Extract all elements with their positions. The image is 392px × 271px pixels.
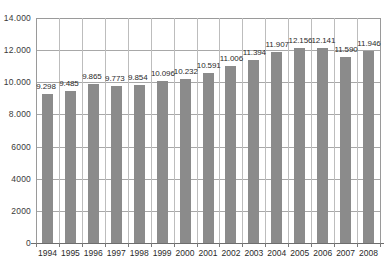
x-axis-category-label: 2005 [290, 249, 309, 258]
y-axis-tick-label: 2000 [0, 207, 31, 216]
gridline-vertical [59, 18, 60, 243]
x-axis-category-label: 1996 [84, 249, 103, 258]
y-axis-tick-label: 10.000 [0, 78, 31, 87]
y-axis-tick-label: 8.000 [0, 110, 31, 119]
bar-value-label: 12.141 [311, 37, 335, 45]
gridline-vertical [174, 18, 175, 243]
bar [248, 60, 259, 243]
x-axis-tick [151, 243, 152, 247]
x-axis-category-label: 2000 [176, 249, 195, 258]
x-axis-category-label: 1998 [130, 249, 149, 258]
bar-value-label: 11.006 [220, 55, 243, 63]
x-axis-line [31, 243, 384, 244]
x-axis-tick [357, 243, 358, 247]
bar [294, 48, 305, 243]
y-axis-tick-label: 6000 [0, 142, 31, 151]
bar-value-label: 10.232 [174, 68, 198, 76]
x-axis-category-label: 2004 [267, 249, 286, 258]
x-axis-category-label: 2002 [221, 249, 240, 258]
bar [65, 91, 76, 243]
bar [111, 86, 122, 243]
bar [157, 81, 168, 243]
y-axis-tick-label: 4000 [0, 174, 31, 183]
x-axis-category-label: 2001 [199, 249, 218, 258]
x-axis-tick [59, 243, 60, 247]
gridline-vertical [380, 18, 381, 243]
bar-value-label: 11.907 [266, 41, 289, 49]
x-axis-tick [82, 243, 83, 247]
x-axis-tick [242, 243, 243, 247]
gridline-vertical [219, 18, 220, 243]
x-axis-category-label: 1995 [61, 249, 80, 258]
bar-value-label: 9.298 [36, 83, 56, 91]
gridline-vertical [311, 18, 312, 243]
gridline-vertical [288, 18, 289, 243]
y-axis-tick-label: 14.000 [0, 14, 31, 23]
gridline-vertical [128, 18, 129, 243]
bar-value-label: 11.946 [357, 40, 380, 48]
x-axis-category-label: 1999 [153, 249, 172, 258]
gridline-horizontal [36, 18, 380, 19]
bar [88, 84, 99, 243]
x-axis-category-label: 2007 [336, 249, 355, 258]
bar-value-label: 9.865 [82, 73, 102, 81]
bar-value-label: 10.591 [197, 62, 221, 70]
x-axis-category-label: 2006 [313, 249, 332, 258]
bar-value-label: 11.394 [243, 49, 266, 57]
gridline-vertical [82, 18, 83, 243]
plot-area: 9.2989.4859.8659.7739.85410.09610.23210.… [36, 18, 380, 243]
x-axis-tick [197, 243, 198, 247]
bar [363, 51, 374, 243]
x-axis-tick [105, 243, 106, 247]
y-axis-tick-label: 12.000 [0, 46, 31, 55]
x-axis-tick [174, 243, 175, 247]
bar-value-label: 11.590 [334, 46, 357, 54]
bar [180, 79, 191, 243]
x-axis-category-label: 2008 [359, 249, 378, 258]
bar-value-label: 10.096 [151, 70, 175, 78]
x-axis-tick [265, 243, 266, 247]
bar [271, 52, 282, 243]
bar [134, 85, 145, 243]
gridline-vertical [105, 18, 106, 243]
bar [42, 94, 53, 243]
x-axis-tick [334, 243, 335, 247]
x-axis-tick [380, 243, 381, 247]
bar [225, 66, 236, 243]
x-axis-tick [288, 243, 289, 247]
bar [340, 57, 351, 243]
x-axis-tick [128, 243, 129, 247]
gridline-vertical [36, 18, 37, 243]
bar-value-label: 12.156 [289, 37, 313, 45]
x-axis-category-label: 1997 [107, 249, 126, 258]
gridline-vertical [197, 18, 198, 243]
gridline-horizontal [36, 50, 380, 51]
y-axis: 14.00012.00010.0008.0006000400020000 [0, 0, 31, 271]
x-axis-category-label: 1994 [38, 249, 57, 258]
bar [317, 48, 328, 243]
x-axis-tick [36, 243, 37, 247]
bar [203, 73, 214, 243]
x-axis-category-labels: 1994199519961997199819992000200120022003… [36, 249, 380, 265]
x-axis-category-label: 2003 [244, 249, 263, 258]
bar-value-label: 9.773 [105, 75, 125, 83]
x-axis-tick [311, 243, 312, 247]
bar-chart: 14.00012.00010.0008.0006000400020000 9.2… [0, 0, 392, 271]
bar-value-label: 9.854 [128, 74, 148, 82]
bar-value-label: 9.485 [59, 80, 79, 88]
y-axis-tick-label: 0 [0, 239, 31, 248]
x-axis-tick [219, 243, 220, 247]
gridline-vertical [151, 18, 152, 243]
